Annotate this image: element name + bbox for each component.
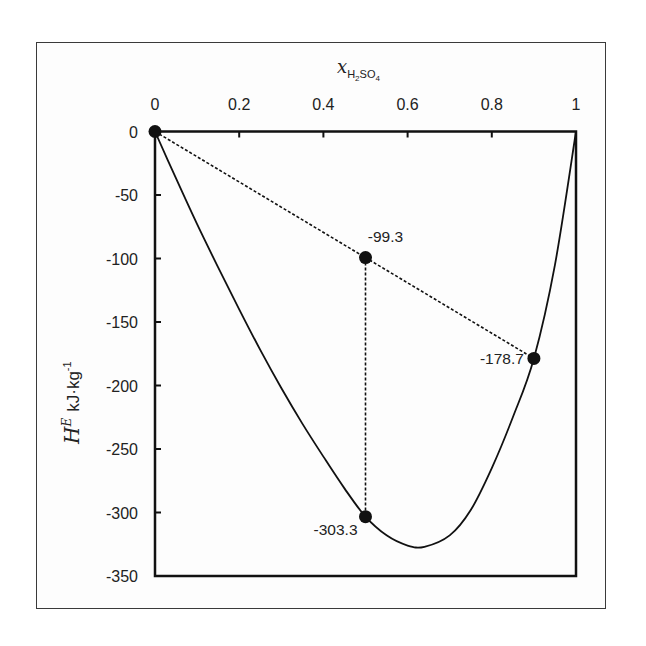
chart-canvas: 00.20.40.60.810-50-100-150-200-250-300-3… xyxy=(0,0,646,646)
x-axis-title: xH2SO4 xyxy=(337,56,380,83)
y-tick-label: -150 xyxy=(106,314,138,331)
x-tick-label: 0 xyxy=(151,96,160,113)
data-point-label: -178.7 xyxy=(480,350,524,367)
y-tick-label: -350 xyxy=(106,568,138,585)
x-tick-label: 0.4 xyxy=(312,96,334,113)
points-layer: -99.3-178.7-303.3 xyxy=(149,125,541,538)
data-point-label: -303.3 xyxy=(314,521,358,538)
x-tick-label: 0.8 xyxy=(481,96,503,113)
y-tick-label: -300 xyxy=(106,505,138,522)
y-axis-title: HEkJ·kg-1 xyxy=(60,361,84,445)
data-point-marker xyxy=(359,510,372,523)
x-tick-label: 0.2 xyxy=(228,96,250,113)
data-point-marker xyxy=(149,125,162,138)
data-point-marker xyxy=(359,251,372,264)
x-tick-label: 0.6 xyxy=(396,96,418,113)
x-tick-label: 1 xyxy=(572,96,581,113)
data-point-marker xyxy=(527,352,540,365)
y-tick-label: 0 xyxy=(129,124,138,141)
svg-text:HEkJ·kg-1: HEkJ·kg-1 xyxy=(60,361,84,445)
data-point-label: -99.3 xyxy=(368,228,403,245)
axes-layer: 00.20.40.60.810-50-100-150-200-250-300-3… xyxy=(106,96,581,585)
dashed-line xyxy=(155,132,534,359)
curve-layer xyxy=(155,132,576,548)
y-tick-label: -50 xyxy=(115,187,138,204)
y-tick-label: -200 xyxy=(106,378,138,395)
y-tick-label: -100 xyxy=(106,251,138,268)
y-tick-label: -250 xyxy=(106,441,138,458)
